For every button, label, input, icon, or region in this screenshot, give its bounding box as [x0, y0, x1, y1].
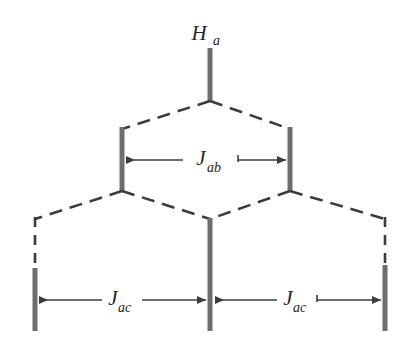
label-ha-symbol: H: [190, 21, 208, 45]
jac-branch-left-diagonal: [35, 191, 122, 219]
jab-branch-upper-left: [122, 101, 210, 129]
jab-branch-upper-right: [210, 101, 290, 129]
label-jac-left: J ac: [108, 286, 132, 315]
label-jac-right-subscript: ac: [293, 300, 307, 315]
jab-branch-lower-right: [210, 191, 290, 219]
label-jac-right: J ac: [283, 286, 307, 315]
diagram-canvas: H a J ab J ac J ac: [0, 0, 410, 346]
label-ha: H a: [190, 21, 220, 48]
splitting-tree-diagram: H a J ab J ac J ac: [0, 0, 410, 346]
label-jab: J ab: [196, 146, 221, 175]
jab-measure-group: [126, 155, 286, 162]
label-jab-symbol: J: [196, 146, 207, 170]
final-peaks-group: [35, 218, 385, 331]
jab-branch-lower-left: [122, 191, 210, 219]
label-ha-subscript: a: [213, 33, 220, 48]
jac-branch-right-diagonal: [290, 191, 385, 219]
label-jac-left-subscript: ac: [118, 300, 132, 315]
label-jab-subscript: ab: [207, 160, 221, 175]
